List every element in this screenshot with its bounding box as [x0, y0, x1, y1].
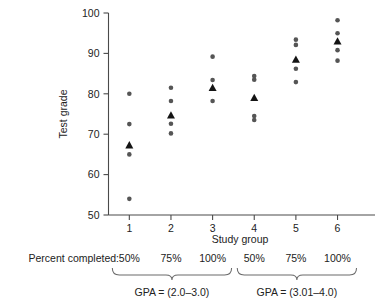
data-point-circle	[335, 48, 340, 53]
x-tick-label: 5	[293, 222, 299, 234]
data-point-circle	[169, 131, 174, 136]
data-point-circle	[252, 77, 257, 82]
percent-completed-values: 50%75%100%50%75%100%	[119, 252, 351, 264]
x-tick-label: 1	[126, 222, 132, 234]
percent-completed-value: 100%	[199, 252, 226, 264]
gpa-brace	[237, 268, 356, 280]
percent-completed-label: Percent completed:	[29, 252, 119, 264]
scatter-plot-figure: 5060708090100 123456 Test grade Study gr…	[0, 0, 387, 307]
x-tick-label: 6	[335, 222, 341, 234]
data-point-circle	[127, 92, 132, 97]
percent-completed-value: 75%	[160, 252, 181, 264]
data-point-triangle	[250, 94, 258, 101]
data-point-circle	[127, 197, 132, 202]
data-point-circle	[252, 118, 257, 123]
data-point-triangle	[292, 55, 300, 62]
gpa-brace	[112, 268, 231, 280]
data-point-circle	[294, 43, 299, 48]
gpa-group-labels: GPA = (2.0–3.0)GPA = (3.01–4.0)	[135, 286, 338, 298]
y-tick-label: 80	[88, 88, 100, 100]
data-point-triangle	[334, 37, 342, 44]
gpa-group-label: GPA = (2.0–3.0)	[135, 286, 210, 298]
y-tick-label: 100	[82, 7, 100, 19]
x-tick-label: 2	[168, 222, 174, 234]
data-point-triangle	[125, 141, 133, 148]
data-point-triangle	[167, 111, 175, 118]
x-axis-title: Study group	[212, 233, 269, 245]
y-tick-label: 50	[88, 209, 100, 221]
test-grade-scatter-chart: 5060708090100 123456 Test grade Study gr…	[0, 0, 387, 307]
data-point-circle	[294, 80, 299, 85]
y-tick-label: 60	[88, 168, 100, 180]
data-point-circle	[210, 99, 215, 104]
data-point-circle	[127, 152, 132, 157]
data-point-circle	[127, 122, 132, 127]
data-point-circle	[252, 114, 257, 119]
data-point-circle	[335, 58, 340, 63]
gpa-braces	[112, 268, 356, 280]
data-point-circle	[294, 66, 299, 71]
data-point-circle	[335, 18, 340, 23]
data-point-circle	[169, 121, 174, 126]
x-axis-ticks	[129, 215, 337, 220]
gpa-group-label: GPA = (3.01–4.0)	[257, 286, 338, 298]
y-axis-ticks	[104, 13, 109, 215]
data-point-circle	[210, 54, 215, 59]
percent-completed-value: 50%	[119, 252, 140, 264]
y-tick-label: 70	[88, 128, 100, 140]
percent-completed-value: 50%	[244, 252, 265, 264]
percent-completed-value: 100%	[324, 252, 351, 264]
y-tick-label: 90	[88, 47, 100, 59]
data-point-circle	[169, 85, 174, 90]
data-point-circle	[294, 37, 299, 42]
data-points-triangles	[125, 37, 341, 148]
data-point-circle	[335, 31, 340, 36]
percent-completed-value: 75%	[285, 252, 306, 264]
data-point-circle	[169, 99, 174, 104]
y-axis-title: Test grade	[57, 89, 69, 138]
data-point-circle	[210, 78, 215, 83]
data-point-triangle	[209, 84, 217, 91]
y-axis-tick-labels: 5060708090100	[82, 7, 100, 221]
data-points-circles	[127, 18, 340, 201]
